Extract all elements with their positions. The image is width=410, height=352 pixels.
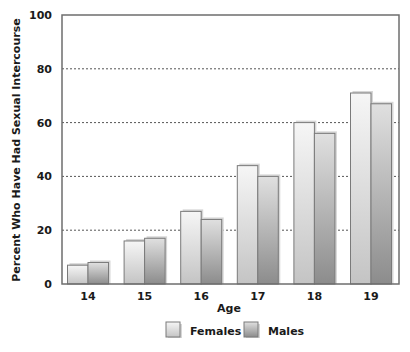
x-tick-label: 19: [363, 290, 378, 303]
bar-males-19: [371, 102, 394, 284]
legend-swatch-females-face: [166, 322, 180, 337]
bar-males-17: [258, 174, 281, 284]
y-tick-label: 0: [44, 278, 52, 291]
bar-females-16: [181, 209, 204, 284]
bar-males-16: [201, 217, 224, 284]
y-tick-label: 60: [37, 117, 53, 130]
y-tick-label: 20: [37, 224, 53, 237]
y-tick-labels: 020406080100: [29, 9, 52, 291]
plot-frame: [62, 15, 399, 284]
x-tick-label: 15: [137, 290, 152, 303]
bar-chart: 020406080100 141516171819 Percent Who Ha…: [0, 0, 410, 352]
bars: [68, 91, 394, 284]
axes: [62, 15, 399, 284]
x-tick-label: 18: [307, 290, 322, 303]
legend-swatch-males: [244, 322, 258, 337]
y-tick-label: 80: [37, 63, 53, 76]
bar-females-14: [68, 263, 91, 284]
legend-label-females: Females: [190, 325, 242, 338]
legend-item-females: Females: [166, 322, 242, 338]
bar-females-18: [294, 121, 317, 284]
bar-males-14: [88, 260, 111, 284]
legend: Females Males: [166, 322, 305, 338]
x-axis-title: Age: [217, 302, 241, 315]
y-tick-label: 40: [37, 170, 53, 183]
y-axis-title: Percent Who Have Had Sexual Intercourse: [10, 18, 23, 281]
gridlines: [62, 69, 399, 230]
bar-females-19: [351, 91, 374, 284]
x-tick-label: 17: [250, 290, 265, 303]
bar-females-15: [124, 239, 147, 284]
bar-males-18: [314, 131, 337, 284]
bar-males-15: [145, 236, 168, 284]
y-tick-label: 100: [29, 9, 52, 22]
legend-item-males: Males: [244, 322, 305, 338]
x-tick-label: 14: [80, 290, 96, 303]
legend-label-males: Males: [268, 325, 305, 338]
bar-females-17: [237, 164, 259, 284]
x-tick-label: 16: [194, 290, 210, 303]
